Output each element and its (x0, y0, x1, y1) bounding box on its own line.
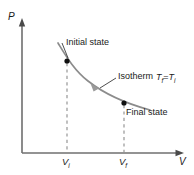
initial-state-label: Initial state (66, 38, 109, 47)
tick-final-subscript: f (125, 162, 127, 169)
temperature-equation: Tf=Ti (156, 73, 176, 84)
isotherm-leader-line (100, 78, 116, 88)
final-state-label: Final state (126, 108, 168, 117)
diagram-canvas (0, 0, 194, 175)
isotherm-label: Isotherm (118, 72, 153, 81)
tick-label-initial-volume: Vi (62, 157, 70, 169)
tick-label-final-volume: Vf (119, 157, 127, 169)
final-state-marker (121, 100, 126, 105)
initial-state-marker (64, 58, 69, 63)
y-axis-arrowhead (19, 18, 25, 27)
y-axis-label: P (8, 12, 15, 22)
x-axis-label: V (179, 157, 186, 167)
tick-initial-subscript: i (68, 162, 69, 169)
pv-diagram-figure: P V Initial state Isotherm Tf=Ti Final s… (0, 0, 194, 175)
equation-rhs-subscript: i (174, 77, 175, 84)
